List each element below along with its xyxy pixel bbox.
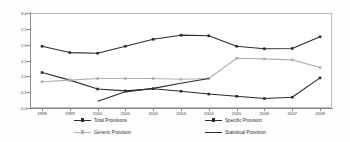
legend-label-total-provisions: Total Provisions <box>94 118 127 123</box>
data-point-marker <box>208 93 211 96</box>
chart-screenshot: 0.0 0.5 1.0 1.5 2.0 2.5 3.0 199819992000… <box>0 0 350 142</box>
legend-square-marker-icon <box>212 118 215 121</box>
legend-swatch-specific-provision <box>205 117 222 124</box>
x-tick-mark-5 <box>181 108 182 111</box>
x-tick-mark-7 <box>237 108 238 111</box>
data-point-marker <box>263 97 266 100</box>
data-point-marker <box>291 47 294 50</box>
x-tick-mark-9 <box>292 108 293 111</box>
data-point-marker <box>319 35 322 38</box>
data-point-marker <box>180 78 183 81</box>
data-point-marker <box>263 58 266 61</box>
data-point-marker <box>96 77 99 80</box>
data-point-marker <box>69 79 72 82</box>
data-point-marker <box>235 57 238 60</box>
series-line-specific-provision <box>42 73 320 99</box>
y-tick-label-5: 2.5 <box>9 26 27 31</box>
legend-swatch-statistical-provision <box>205 129 222 136</box>
data-point-marker <box>319 66 322 69</box>
data-point-marker <box>96 52 99 55</box>
legend-square-marker-icon <box>81 118 84 121</box>
x-tick-mark-0 <box>42 108 43 111</box>
data-point-marker <box>41 80 44 83</box>
data-point-marker <box>124 45 127 48</box>
legend-swatch-generic-provision <box>74 129 91 136</box>
data-point-marker <box>319 77 322 80</box>
data-point-marker <box>96 88 99 91</box>
chart-plot <box>30 13 332 108</box>
legend-label-statistical-provision: Statistical Provision <box>225 130 266 135</box>
y-tick-label-2: 1.0 <box>9 74 27 79</box>
data-point-marker <box>124 77 127 80</box>
data-point-marker <box>291 59 294 62</box>
y-tick-label-4: 2.0 <box>9 42 27 47</box>
x-tick-mark-3 <box>125 108 126 111</box>
legend-swatch-total-provisions <box>74 117 91 124</box>
legend-item-generic-provision: Generic Provision <box>74 128 131 137</box>
legend-square-marker-icon <box>81 130 84 133</box>
legend-label-generic-provision: Generic Provision <box>94 130 131 135</box>
legend-item-statistical-provision: Statistical Provision <box>205 128 266 137</box>
legend-label-specific-provision: Specific Provision <box>225 118 262 123</box>
legend-item-total-provisions: Total Provisions <box>74 116 127 125</box>
y-tick-label-6: 3.0 <box>9 11 27 16</box>
legend-line-icon <box>205 132 222 133</box>
y-tick-mark-0 <box>27 108 30 109</box>
data-point-marker <box>152 38 155 41</box>
x-tick-mark-8 <box>264 108 265 111</box>
data-point-marker <box>180 90 183 93</box>
legend-item-specific-provision: Specific Provision <box>205 116 262 125</box>
series-line-total-provisions <box>42 35 320 53</box>
data-point-marker <box>41 71 44 74</box>
y-tick-label-1: 0.5 <box>9 90 27 95</box>
data-point-marker <box>291 96 294 99</box>
x-tick-mark-2 <box>98 108 99 111</box>
y-tick-label-3: 1.5 <box>9 58 27 63</box>
data-point-marker <box>208 35 211 38</box>
chart-legend: Total Provisions Specific Provision Gene… <box>0 114 350 142</box>
series-layer <box>41 34 322 101</box>
data-point-marker <box>263 47 266 50</box>
x-tick-mark-10 <box>320 108 321 111</box>
x-tick-mark-4 <box>153 108 154 111</box>
data-point-marker <box>235 95 238 98</box>
data-point-marker <box>235 45 238 48</box>
x-tick-mark-6 <box>209 108 210 111</box>
data-point-marker <box>41 45 44 48</box>
y-tick-label-0: 0.0 <box>9 106 27 111</box>
x-tick-mark-1 <box>70 108 71 111</box>
data-point-marker <box>69 51 72 54</box>
data-point-marker <box>180 34 183 37</box>
data-point-marker <box>152 77 155 80</box>
